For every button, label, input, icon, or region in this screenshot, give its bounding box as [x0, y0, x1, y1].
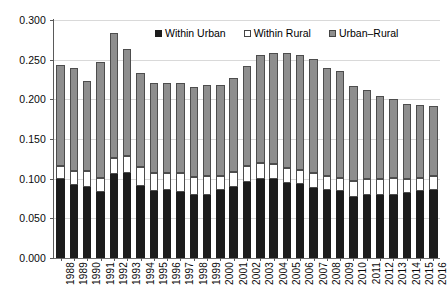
bar-segment-urban-rural[interactable] — [309, 59, 317, 173]
bar-segment-within-rural[interactable] — [123, 156, 131, 173]
bar-segment-within-urban[interactable] — [309, 188, 317, 258]
bar[interactable] — [269, 53, 277, 258]
bar-segment-within-rural[interactable] — [256, 163, 264, 179]
bar[interactable] — [83, 81, 91, 258]
bar-segment-urban-rural[interactable] — [416, 105, 424, 178]
bar-segment-within-rural[interactable] — [163, 173, 171, 190]
bar-segment-within-urban[interactable] — [376, 195, 384, 258]
bar-segment-within-urban[interactable] — [403, 193, 411, 258]
bar[interactable] — [243, 66, 251, 258]
bar-segment-within-urban[interactable] — [136, 186, 144, 258]
bar-segment-within-urban[interactable] — [229, 187, 237, 258]
bar-segment-urban-rural[interactable] — [229, 78, 237, 172]
bar-segment-urban-rural[interactable] — [110, 33, 118, 158]
bar-segment-within-urban[interactable] — [70, 185, 78, 258]
bar-segment-urban-rural[interactable] — [376, 96, 384, 179]
bar-segment-within-rural[interactable] — [216, 176, 224, 190]
bar-segment-within-urban[interactable] — [96, 192, 104, 258]
bar-segment-urban-rural[interactable] — [70, 68, 78, 171]
bar-segment-within-urban[interactable] — [349, 197, 357, 258]
bar[interactable] — [429, 106, 437, 258]
bar-segment-within-rural[interactable] — [229, 172, 237, 187]
bar-segment-within-urban[interactable] — [83, 187, 91, 258]
bar-segment-within-rural[interactable] — [309, 173, 317, 188]
bar-segment-urban-rural[interactable] — [136, 73, 144, 167]
bar[interactable] — [96, 62, 104, 258]
bar[interactable] — [136, 73, 144, 258]
bar-segment-within-rural[interactable] — [376, 179, 384, 195]
bar[interactable] — [283, 53, 291, 258]
bar-segment-within-rural[interactable] — [136, 167, 144, 186]
bar[interactable] — [110, 33, 118, 258]
bar-segment-within-urban[interactable] — [323, 190, 331, 258]
bar-segment-within-rural[interactable] — [283, 168, 291, 183]
bar-segment-within-urban[interactable] — [123, 173, 131, 258]
legend-item[interactable]: Urban–Rural — [329, 28, 399, 39]
bar[interactable] — [216, 85, 224, 258]
bar[interactable] — [256, 55, 264, 258]
bar-segment-within-rural[interactable] — [150, 173, 158, 190]
bar-segment-within-urban[interactable] — [429, 190, 437, 258]
bar-segment-within-rural[interactable] — [56, 166, 64, 179]
bar[interactable] — [229, 78, 237, 258]
bar-segment-within-urban[interactable] — [110, 174, 118, 258]
bar-segment-within-urban[interactable] — [363, 195, 371, 258]
bar[interactable] — [336, 71, 344, 258]
bar-segment-within-rural[interactable] — [83, 171, 91, 188]
bar[interactable] — [150, 83, 158, 258]
bar[interactable] — [376, 96, 384, 258]
bar-segment-within-rural[interactable] — [203, 176, 211, 194]
bar-segment-urban-rural[interactable] — [256, 55, 264, 163]
bar[interactable] — [56, 65, 64, 258]
bar[interactable] — [190, 87, 198, 258]
bar-segment-urban-rural[interactable] — [123, 49, 131, 156]
bar-segment-within-rural[interactable] — [110, 158, 118, 174]
bar-segment-within-rural[interactable] — [176, 173, 184, 192]
bar[interactable] — [349, 86, 357, 258]
bar-segment-urban-rural[interactable] — [203, 85, 211, 176]
bar-segment-within-rural[interactable] — [243, 166, 251, 182]
bar-segment-within-urban[interactable] — [216, 190, 224, 258]
bar-segment-urban-rural[interactable] — [403, 104, 411, 179]
bar-segment-urban-rural[interactable] — [283, 53, 291, 167]
bar-segment-urban-rural[interactable] — [83, 81, 91, 171]
bar-segment-within-urban[interactable] — [269, 179, 277, 258]
bar-segment-within-urban[interactable] — [56, 179, 64, 258]
bar-segment-within-urban[interactable] — [416, 191, 424, 258]
bar-segment-within-urban[interactable] — [283, 183, 291, 258]
bar-segment-urban-rural[interactable] — [216, 85, 224, 175]
bar-segment-urban-rural[interactable] — [429, 106, 437, 176]
bar-segment-within-rural[interactable] — [363, 179, 371, 194]
bar-segment-urban-rural[interactable] — [323, 68, 331, 177]
bar[interactable] — [389, 99, 397, 258]
bar-segment-within-rural[interactable] — [429, 176, 437, 190]
bar-segment-within-urban[interactable] — [190, 195, 198, 258]
bar-segment-within-urban[interactable] — [176, 192, 184, 258]
bar[interactable] — [203, 85, 211, 258]
bar-segment-urban-rural[interactable] — [96, 62, 104, 178]
bar-segment-urban-rural[interactable] — [363, 90, 371, 180]
bar-segment-within-urban[interactable] — [243, 182, 251, 258]
bar-segment-within-urban[interactable] — [150, 191, 158, 258]
bar-segment-urban-rural[interactable] — [163, 83, 171, 173]
bar-segment-urban-rural[interactable] — [269, 53, 277, 164]
bar-segment-within-rural[interactable] — [96, 178, 104, 192]
bar-segment-within-rural[interactable] — [349, 181, 357, 197]
bar-segment-urban-rural[interactable] — [150, 83, 158, 173]
bar-segment-within-rural[interactable] — [190, 177, 198, 194]
bar-segment-urban-rural[interactable] — [336, 71, 344, 178]
bar-segment-within-urban[interactable] — [296, 184, 304, 258]
bar-segment-urban-rural[interactable] — [56, 65, 64, 166]
bar[interactable] — [323, 68, 331, 258]
bar-segment-within-rural[interactable] — [269, 164, 277, 179]
bar-segment-within-urban[interactable] — [336, 191, 344, 258]
bar-segment-within-urban[interactable] — [203, 195, 211, 258]
bar[interactable] — [403, 104, 411, 258]
bar[interactable] — [363, 90, 371, 258]
bar-segment-within-urban[interactable] — [389, 195, 397, 258]
legend-item[interactable]: Within Rural — [244, 28, 311, 39]
bar-segment-within-rural[interactable] — [336, 178, 344, 191]
bar-segment-urban-rural[interactable] — [349, 86, 357, 181]
bar-segment-urban-rural[interactable] — [296, 55, 304, 170]
bar-segment-urban-rural[interactable] — [190, 87, 198, 177]
